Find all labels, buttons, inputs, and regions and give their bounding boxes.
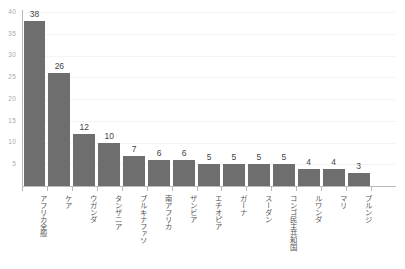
bar[interactable] xyxy=(198,164,220,186)
bar-value-label: 5 xyxy=(221,153,246,162)
bar-group[interactable]: 6ザンビア xyxy=(172,0,197,269)
y-axis-tick-label: 30 xyxy=(2,52,16,59)
x-axis-tick xyxy=(221,187,222,191)
category-label-text: ザンビア xyxy=(189,194,197,222)
bar[interactable] xyxy=(148,160,170,186)
x-axis-tick xyxy=(172,187,173,191)
x-axis-tick xyxy=(271,187,272,191)
bar-group[interactable]: 3ブルンジ xyxy=(346,0,371,269)
x-axis-category-label: マリ xyxy=(321,194,346,208)
bar-value-label: 4 xyxy=(296,158,321,167)
bar[interactable] xyxy=(98,143,120,187)
x-axis-category-label: ケア xyxy=(47,194,72,208)
x-axis-category-label: ブルンジ xyxy=(346,194,371,222)
x-axis-category-label: コンゴ民主共和国 xyxy=(271,194,296,250)
bar-value-label: 26 xyxy=(47,62,72,71)
bar-chart: 510152025303540 38アフリカ全般26ケア12ウガンダ10タンザニ… xyxy=(0,0,405,269)
bar[interactable] xyxy=(24,21,46,186)
bar[interactable] xyxy=(273,164,295,186)
x-axis-tick xyxy=(97,187,98,191)
category-label-text: ルワンダ xyxy=(314,194,322,222)
x-axis-tick xyxy=(246,187,247,191)
bar-value-label: 38 xyxy=(22,10,47,19)
x-axis-category-label: ルワンダ xyxy=(296,194,321,222)
bar-group[interactable]: 5スーダン xyxy=(246,0,271,269)
bar-value-label: 6 xyxy=(147,149,172,158)
x-axis-tick xyxy=(47,187,48,191)
x-axis-tick xyxy=(197,187,198,191)
category-label-text: マリ xyxy=(339,194,347,208)
x-axis-category-label: ガーナ xyxy=(221,194,246,215)
bar[interactable] xyxy=(248,164,270,186)
x-axis-tick xyxy=(346,187,347,191)
x-axis-category-label: 南アフリカ xyxy=(147,194,172,229)
bar[interactable] xyxy=(348,173,370,186)
x-axis-category-label: ウガンダ xyxy=(72,194,97,222)
y-axis-tick-label: 25 xyxy=(2,74,16,81)
x-axis-tick xyxy=(147,187,148,191)
bar[interactable] xyxy=(173,160,195,186)
bar-value-label: 3 xyxy=(346,162,371,171)
bar[interactable] xyxy=(298,169,320,186)
category-label-text: ケア xyxy=(64,194,72,208)
bar[interactable] xyxy=(123,156,145,186)
bar[interactable] xyxy=(323,169,345,186)
category-label-text: エチオピア xyxy=(214,194,222,229)
x-axis-category-label: アフリカ全般 xyxy=(22,194,47,236)
bar[interactable] xyxy=(48,73,70,186)
bar-group[interactable]: 5エチオピア xyxy=(197,0,222,269)
y-axis-tick-label: 10 xyxy=(2,139,16,146)
bar-group[interactable]: 7ブルキナファソ xyxy=(122,0,147,269)
bar[interactable] xyxy=(223,164,245,186)
bar-value-label: 4 xyxy=(321,158,346,167)
bar-group[interactable]: 6南アフリカ xyxy=(147,0,172,269)
category-label-text: タンザニア xyxy=(114,194,122,229)
x-axis-tick xyxy=(296,187,297,191)
bar-group[interactable]: 38アフリカ全般 xyxy=(22,0,47,269)
x-axis-category-label: スーダン xyxy=(246,194,271,222)
x-axis-tick xyxy=(22,187,23,191)
bar-value-label: 12 xyxy=(72,123,97,132)
bar-group[interactable]: 4ルワンダ xyxy=(296,0,321,269)
bar-value-label: 7 xyxy=(122,145,147,154)
category-label-text: 南アフリカ xyxy=(164,194,172,229)
bar-group[interactable]: 5ガーナ xyxy=(221,0,246,269)
bar-value-label: 10 xyxy=(97,132,122,141)
category-label-text: アフリカ全般 xyxy=(39,194,47,236)
bar-group[interactable]: 10タンザニア xyxy=(97,0,122,269)
bar-group[interactable]: 4マリ xyxy=(321,0,346,269)
y-axis-tick-label: 15 xyxy=(2,118,16,125)
bar-group[interactable]: 12ウガンダ xyxy=(72,0,97,269)
y-axis-tick-label: 5 xyxy=(2,161,16,168)
x-axis-category-label: エチオピア xyxy=(197,194,222,229)
x-axis-category-label: ブルキナファソ xyxy=(122,194,147,243)
x-axis-tick xyxy=(72,187,73,191)
x-axis-category-label: ザンビア xyxy=(172,194,197,222)
category-label-text: コンゴ民主共和国 xyxy=(289,194,297,250)
bars-layer: 38アフリカ全般26ケア12ウガンダ10タンザニア7ブルキナファソ6南アフリカ6… xyxy=(22,0,396,269)
bar-value-label: 5 xyxy=(197,153,222,162)
bar-value-label: 6 xyxy=(172,149,197,158)
bar-group[interactable]: 26ケア xyxy=(47,0,72,269)
x-axis-tick xyxy=(122,187,123,191)
category-label-text: スーダン xyxy=(264,194,272,222)
category-label-text: ブルンジ xyxy=(364,194,372,222)
bar-value-label: 5 xyxy=(246,153,271,162)
category-label-text: ガーナ xyxy=(239,194,247,215)
bar-value-label: 5 xyxy=(271,153,296,162)
category-label-text: ブルキナファソ xyxy=(139,194,147,243)
y-axis-tick-label: 40 xyxy=(2,9,16,16)
bar[interactable] xyxy=(73,134,95,186)
x-axis-tick xyxy=(321,187,322,191)
x-axis-category-label: タンザニア xyxy=(97,194,122,229)
bar-group[interactable]: 5コンゴ民主共和国 xyxy=(271,0,296,269)
category-label-text: ウガンダ xyxy=(89,194,97,222)
x-axis-tick xyxy=(371,187,372,191)
y-axis-tick-label: 20 xyxy=(2,96,16,103)
y-axis-tick-label: 35 xyxy=(2,31,16,38)
